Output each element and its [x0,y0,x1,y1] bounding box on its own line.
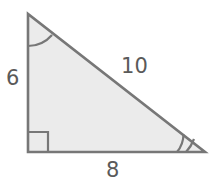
side-label-leg-vertical: 6 [6,68,20,89]
geometry-figure: 6 10 8 [0,0,211,194]
side-label-hypotenuse: 10 [121,56,148,77]
triangle-shape [28,14,205,152]
side-label-leg-horizontal: 8 [106,160,120,181]
